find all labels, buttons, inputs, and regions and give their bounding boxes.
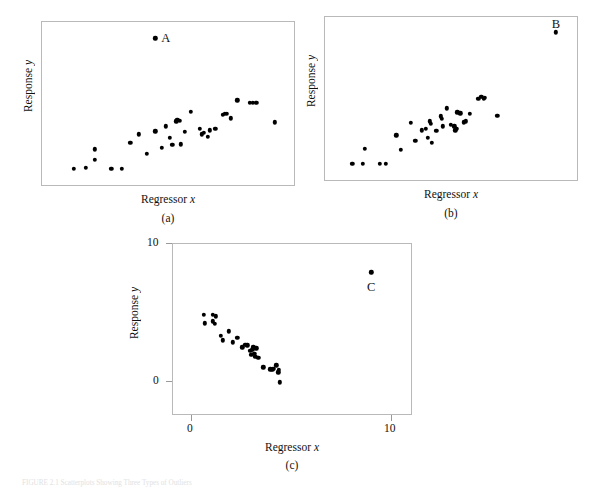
data-point <box>271 366 275 370</box>
data-point <box>468 112 472 116</box>
y-axis-label-a: Response y <box>22 60 34 112</box>
y-tick-mark-0-c <box>166 381 172 382</box>
data-point <box>178 142 182 146</box>
data-point <box>261 365 265 369</box>
data-point <box>208 128 212 132</box>
data-point <box>440 124 444 128</box>
data-point <box>164 124 168 128</box>
data-point <box>136 132 140 136</box>
data-point <box>206 135 210 139</box>
data-point <box>92 158 96 162</box>
data-point <box>109 166 113 170</box>
outlier-label-a: A <box>161 31 170 46</box>
data-point <box>413 139 417 143</box>
data-point <box>458 111 462 115</box>
data-point <box>92 147 96 151</box>
data-point <box>273 120 277 124</box>
data-point <box>463 119 467 123</box>
y-axis-label-b: Response y <box>305 55 317 107</box>
outlier-label-c: C <box>367 279 376 294</box>
data-point <box>426 135 430 139</box>
data-point <box>254 100 258 104</box>
data-point <box>235 335 239 339</box>
plot-area-b: B <box>324 16 578 181</box>
y-tick-label-10-c: 10 <box>147 236 159 248</box>
y-tick-mark-10-c <box>166 243 172 244</box>
data-point <box>377 161 381 165</box>
data-point <box>454 126 458 130</box>
data-point <box>145 152 149 156</box>
data-point <box>398 148 402 152</box>
data-point <box>274 363 278 367</box>
y-axis-label-c: Response y <box>128 287 140 339</box>
panel-sublabel-a: (a) <box>162 212 175 224</box>
data-point <box>434 129 438 133</box>
data-point <box>384 161 388 165</box>
data-point <box>278 380 282 384</box>
data-point <box>482 95 486 99</box>
data-point <box>168 136 172 140</box>
x-axis-label-a: Regressor x <box>141 193 195 205</box>
data-point <box>159 145 163 149</box>
data-point <box>84 166 88 170</box>
x-tick-mark-10-c <box>391 415 392 421</box>
data-point <box>213 127 217 131</box>
panel-sublabel-c: (c) <box>286 459 299 471</box>
outlier-label-b: B <box>552 16 561 31</box>
data-point <box>363 147 367 151</box>
data-point <box>153 129 157 133</box>
x-axis-label-c: Regressor x <box>265 441 319 453</box>
figure-caption: FIGURE 2.1 Scatterplots Showing Three Ty… <box>22 479 192 487</box>
x-tick-label-0-c: 0 <box>187 422 193 434</box>
data-point <box>71 166 75 170</box>
panel-sublabel-b: (b) <box>444 207 457 219</box>
outlier-point-a <box>153 36 157 40</box>
plot-area-c: C <box>172 243 412 415</box>
data-point <box>439 117 443 121</box>
plot-area-a: A <box>41 21 295 186</box>
data-point <box>361 161 365 165</box>
data-point <box>254 346 258 350</box>
data-point <box>409 121 413 125</box>
data-point <box>170 143 174 147</box>
data-point <box>394 133 398 137</box>
data-point <box>183 130 187 134</box>
data-point <box>128 140 132 144</box>
data-point <box>202 313 206 317</box>
data-point <box>495 113 499 117</box>
y-tick-label-0-c: 0 <box>153 374 159 386</box>
data-point <box>256 356 260 360</box>
data-point <box>203 321 207 325</box>
data-point <box>350 161 354 165</box>
data-point <box>226 329 230 333</box>
data-point <box>120 166 124 170</box>
data-point <box>445 106 449 110</box>
x-axis-label-b: Regressor x <box>424 188 478 200</box>
x-tick-mark-0-c <box>191 415 192 421</box>
data-point <box>424 126 428 130</box>
data-point <box>429 122 433 126</box>
data-point <box>235 98 239 102</box>
data-point <box>177 118 181 122</box>
x-tick-label-10-c: 10 <box>384 422 396 434</box>
data-point <box>230 340 234 344</box>
data-point <box>277 368 281 372</box>
data-point <box>229 116 233 120</box>
data-point <box>245 343 249 347</box>
data-point <box>213 314 217 318</box>
outlier-point-c <box>369 270 373 274</box>
data-point <box>430 140 434 144</box>
data-point <box>189 109 193 113</box>
data-point <box>220 338 224 342</box>
data-point <box>212 322 216 326</box>
